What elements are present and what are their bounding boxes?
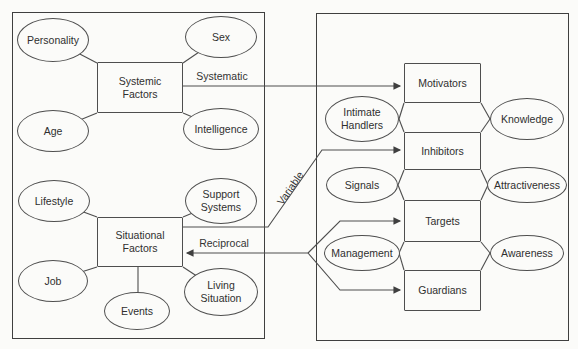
- node-attractiveness: Attractiveness: [487, 167, 567, 203]
- node-lifestyle: Lifestyle: [18, 180, 90, 222]
- node-age: Age: [17, 110, 89, 152]
- line-motivators-knowledge: [481, 103, 490, 119]
- line-motivators-handlers: [399, 103, 404, 119]
- node-inhibitors: Inhibitors: [404, 132, 481, 170]
- line-inhibitors-signals: [398, 170, 404, 185]
- node-targets: Targets: [404, 200, 481, 242]
- node-living-situation: Living Situation: [184, 268, 258, 316]
- factor-model-diagram: Personality Sex Systemic Factors Age Int…: [0, 0, 578, 349]
- line-guardians-awareness: [481, 253, 490, 270]
- line-guardians-management: [399, 253, 404, 270]
- node-events: Events: [104, 292, 170, 330]
- reciprocal-arrow-label: Reciprocal: [199, 237, 249, 249]
- line-inhibitors-handlers: [399, 119, 404, 132]
- node-knowledge: Knowledge: [490, 98, 564, 140]
- node-guardians: Guardians: [404, 270, 481, 311]
- connector-lines: [0, 0, 578, 349]
- node-signals: Signals: [326, 167, 398, 203]
- node-intelligence: Intelligence: [183, 108, 259, 150]
- node-sex: Sex: [185, 16, 257, 58]
- line-targets-awareness: [481, 242, 490, 253]
- node-intimate-handlers: Intimate Handlers: [325, 96, 399, 142]
- node-awareness: Awareness: [490, 235, 564, 271]
- node-systemic-factors: Systemic Factors: [97, 62, 183, 113]
- node-support-systems: Support Systems: [185, 178, 257, 224]
- systematic-arrow-label: Systematic: [196, 70, 247, 82]
- line-inhibitors-knowledge: [481, 119, 490, 132]
- node-motivators: Motivators: [404, 63, 481, 103]
- node-personality: Personality: [17, 18, 89, 62]
- node-job: Job: [18, 260, 88, 302]
- node-management: Management: [324, 235, 400, 271]
- node-situational-factors: Situational Factors: [97, 217, 183, 267]
- line-targets-signals: [398, 185, 404, 200]
